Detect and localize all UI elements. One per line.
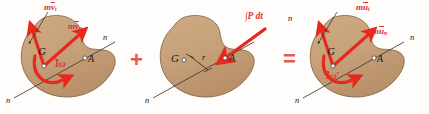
panel-final-momentum [303, 12, 404, 98]
label-axis-lower-2: n [145, 96, 149, 105]
label-axis-lower-1: n [6, 96, 10, 105]
point-marker-a-3 [372, 56, 376, 60]
label-axis-upper-1: n [103, 33, 107, 42]
point-marker-g-3 [331, 64, 335, 68]
operator-plus: + [130, 49, 143, 71]
label-momentum-tangential-3: mut [356, 3, 370, 13]
point-marker-g-2 [182, 58, 186, 62]
point-marker-g-1 [42, 64, 46, 68]
label-moment-arm: r [202, 53, 206, 62]
label-momentum-tangential-1: mvt [44, 3, 57, 13]
label-point-a-1: A [88, 54, 94, 64]
label-point-a-3: A [377, 54, 383, 64]
label-point-a-2: A [229, 53, 235, 63]
label-axis-lower-3: n [295, 96, 299, 105]
operator-equals: = [283, 48, 296, 70]
label-momentum-normal-3: mun [372, 27, 387, 37]
point-marker-a-2 [223, 56, 227, 60]
label-angular-momentum-1: Iω [55, 60, 66, 70]
label-center-of-mass-3: G [327, 46, 335, 57]
label-center-of-mass-2: G [171, 53, 179, 64]
label-impulse: ∫P dt [245, 12, 263, 22]
point-marker-a-1 [83, 56, 87, 60]
figure-canvas [0, 0, 429, 114]
label-axis-upper-3: n [410, 33, 414, 42]
panel-initial-momentum [14, 12, 115, 98]
label-momentum-normal-1: mvn [68, 22, 82, 32]
label-angular-momentum-3: Iω′ [326, 72, 339, 82]
panel-impulse [153, 15, 265, 98]
impulse-momentum-figure: mvt mvn G A Iω n n + ∫P dt G A r n n = m… [0, 0, 429, 114]
label-center-of-mass-1: G [38, 46, 46, 57]
label-axis-upper-2: n [288, 14, 292, 23]
